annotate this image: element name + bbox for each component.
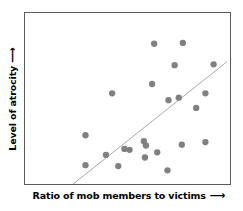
data-point (179, 142, 185, 148)
trendline (73, 62, 227, 184)
x-axis-label: Ratio of mob members to victims ⟶ (24, 190, 234, 201)
plot-area (24, 12, 231, 185)
x-axis-label-text: Ratio of mob members to victims (33, 190, 206, 201)
y-axis-label-text: Level of atrocity (7, 65, 18, 150)
data-point (103, 152, 109, 158)
data-point (193, 105, 199, 111)
data-point (165, 97, 171, 103)
data-points-group (82, 40, 216, 174)
data-point (143, 142, 149, 148)
data-point (171, 62, 177, 68)
data-point (202, 90, 208, 96)
data-point (210, 61, 216, 67)
y-axis-arrow-icon: ⟶ (7, 47, 18, 63)
data-point (149, 81, 155, 87)
data-point (151, 41, 157, 47)
y-axis-label-container: Level of atrocity ⟶ (0, 12, 24, 185)
data-point (180, 40, 186, 46)
data-point (115, 163, 121, 169)
plot-canvas (25, 13, 230, 184)
data-point (202, 139, 208, 145)
data-point (154, 149, 160, 155)
scatter-plot-figure: Level of atrocity ⟶ Ratio of mob members… (0, 0, 243, 211)
trendline-segment (73, 62, 227, 184)
data-point (126, 147, 132, 153)
data-point (82, 132, 88, 138)
data-point (142, 154, 148, 160)
data-point (176, 94, 182, 100)
x-axis-arrow-icon: ⟶ (210, 190, 226, 201)
y-axis-label: Level of atrocity ⟶ (7, 47, 18, 151)
data-point (164, 167, 170, 173)
data-point (109, 90, 115, 96)
data-point (82, 162, 88, 168)
